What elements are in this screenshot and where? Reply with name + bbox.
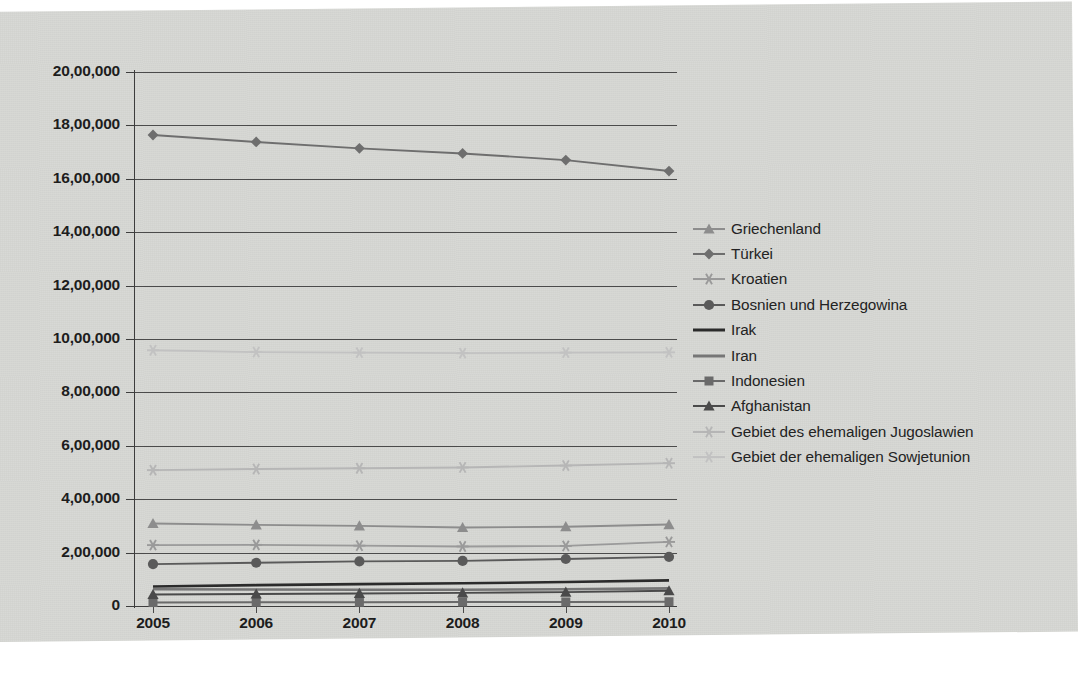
data-point-star — [703, 274, 715, 284]
data-point-circle — [354, 556, 364, 566]
legend-swatch-circle-icon — [692, 297, 726, 313]
legend-item-label: Bosnien und Herzegowina — [731, 296, 907, 314]
legend-swatch-star-icon — [692, 449, 726, 465]
data-point-star — [663, 458, 675, 468]
legend-swatch-star-icon — [692, 424, 726, 440]
data-point-star — [250, 347, 262, 357]
legend-swatch-none-icon — [692, 348, 726, 364]
legend-item-label: Gebiet der ehemaligen Sowjetunion — [731, 448, 970, 466]
data-point-circle — [664, 552, 674, 562]
data-point-star — [457, 541, 469, 551]
series-t-rkei — [148, 130, 675, 177]
data-point-star — [703, 427, 715, 437]
data-point-circle — [704, 300, 714, 310]
legend-item-bosnien-und-herzegowina[interactable]: Bosnien und Herzegowina — [692, 292, 1042, 317]
data-point-star — [147, 465, 159, 475]
legend-item-indonesien[interactable]: Indonesien — [692, 368, 1042, 393]
legend-item-gebiet-der-ehemaligen-sowjetunion[interactable]: Gebiet der ehemaligen Sowjetunion — [692, 445, 1042, 470]
chart-legend: GriechenlandTürkeiKroatienBosnien und He… — [692, 216, 1042, 470]
data-point-diamond — [148, 130, 159, 141]
series-griechenland — [147, 518, 674, 532]
series-kroatien — [147, 537, 675, 552]
data-point-diamond — [354, 143, 365, 154]
data-point-star — [703, 452, 715, 462]
legend-item-kroatien[interactable]: Kroatien — [692, 267, 1042, 292]
legend-item-label: Türkei — [731, 245, 773, 263]
data-point-star — [353, 347, 365, 357]
data-point-diamond — [457, 148, 468, 159]
legend-item-afghanistan[interactable]: Afghanistan — [692, 394, 1042, 419]
data-point-star — [560, 541, 572, 551]
data-point-star — [663, 537, 675, 547]
series-iran — [153, 588, 669, 589]
data-point-square — [665, 597, 674, 606]
legend-item-label: Kroatien — [731, 270, 787, 288]
data-point-circle — [561, 554, 571, 564]
legend-item-label: Indonesien — [731, 372, 805, 390]
series-irak — [153, 580, 669, 586]
data-point-diamond — [560, 155, 571, 166]
series-bosnien-und-herzegowina — [148, 552, 674, 569]
data-point-star — [457, 348, 469, 358]
legend-swatch-none-icon — [692, 322, 726, 338]
data-point-circle — [458, 556, 468, 566]
data-point-square — [458, 597, 467, 606]
series-gebiet-des-ehemaligen-jugoslawien — [147, 458, 675, 475]
legend-item-irak[interactable]: Irak — [692, 318, 1042, 343]
legend-swatch-square-icon — [692, 373, 726, 389]
legend-item-t-rkei[interactable]: Türkei — [692, 241, 1042, 266]
series-afghanistan — [147, 585, 674, 599]
legend-item-label: Afghanistan — [731, 397, 811, 415]
legend-swatch-triangle-icon — [692, 398, 726, 414]
series-indonesien — [149, 597, 674, 607]
data-point-star — [147, 540, 159, 550]
data-point-diamond — [664, 166, 675, 177]
data-point-star — [663, 347, 675, 357]
data-point-square — [252, 598, 261, 607]
legend-item-griechenland[interactable]: Griechenland — [692, 216, 1042, 241]
data-point-circle — [251, 558, 261, 568]
data-point-star — [353, 463, 365, 473]
data-point-circle — [148, 559, 158, 569]
legend-swatch-star-icon — [692, 271, 726, 287]
legend-item-label: Griechenland — [731, 220, 821, 238]
data-point-star — [250, 540, 262, 550]
data-point-star — [353, 540, 365, 550]
data-point-square — [561, 597, 570, 606]
data-point-star — [457, 462, 469, 472]
data-point-star — [250, 464, 262, 474]
legend-item-iran[interactable]: Iran — [692, 343, 1042, 368]
data-point-star — [147, 345, 159, 355]
data-point-diamond — [251, 137, 262, 148]
legend-item-gebiet-des-ehemaligen-jugoslawien[interactable]: Gebiet des ehemaligen Jugoslawien — [692, 419, 1042, 444]
legend-item-label: Iran — [731, 347, 757, 365]
legend-item-label: Gebiet des ehemaligen Jugoslawien — [731, 423, 973, 441]
data-point-star — [560, 460, 572, 470]
data-point-square — [149, 598, 158, 607]
data-point-star — [560, 347, 572, 357]
data-point-square — [705, 377, 714, 386]
legend-swatch-triangle-icon — [692, 221, 726, 237]
series-gebiet-der-ehemaligen-sowjetunion — [147, 345, 675, 358]
legend-swatch-diamond-icon — [692, 246, 726, 262]
legend-item-label: Irak — [731, 321, 756, 339]
data-point-square — [355, 598, 364, 607]
data-point-diamond — [704, 249, 715, 260]
